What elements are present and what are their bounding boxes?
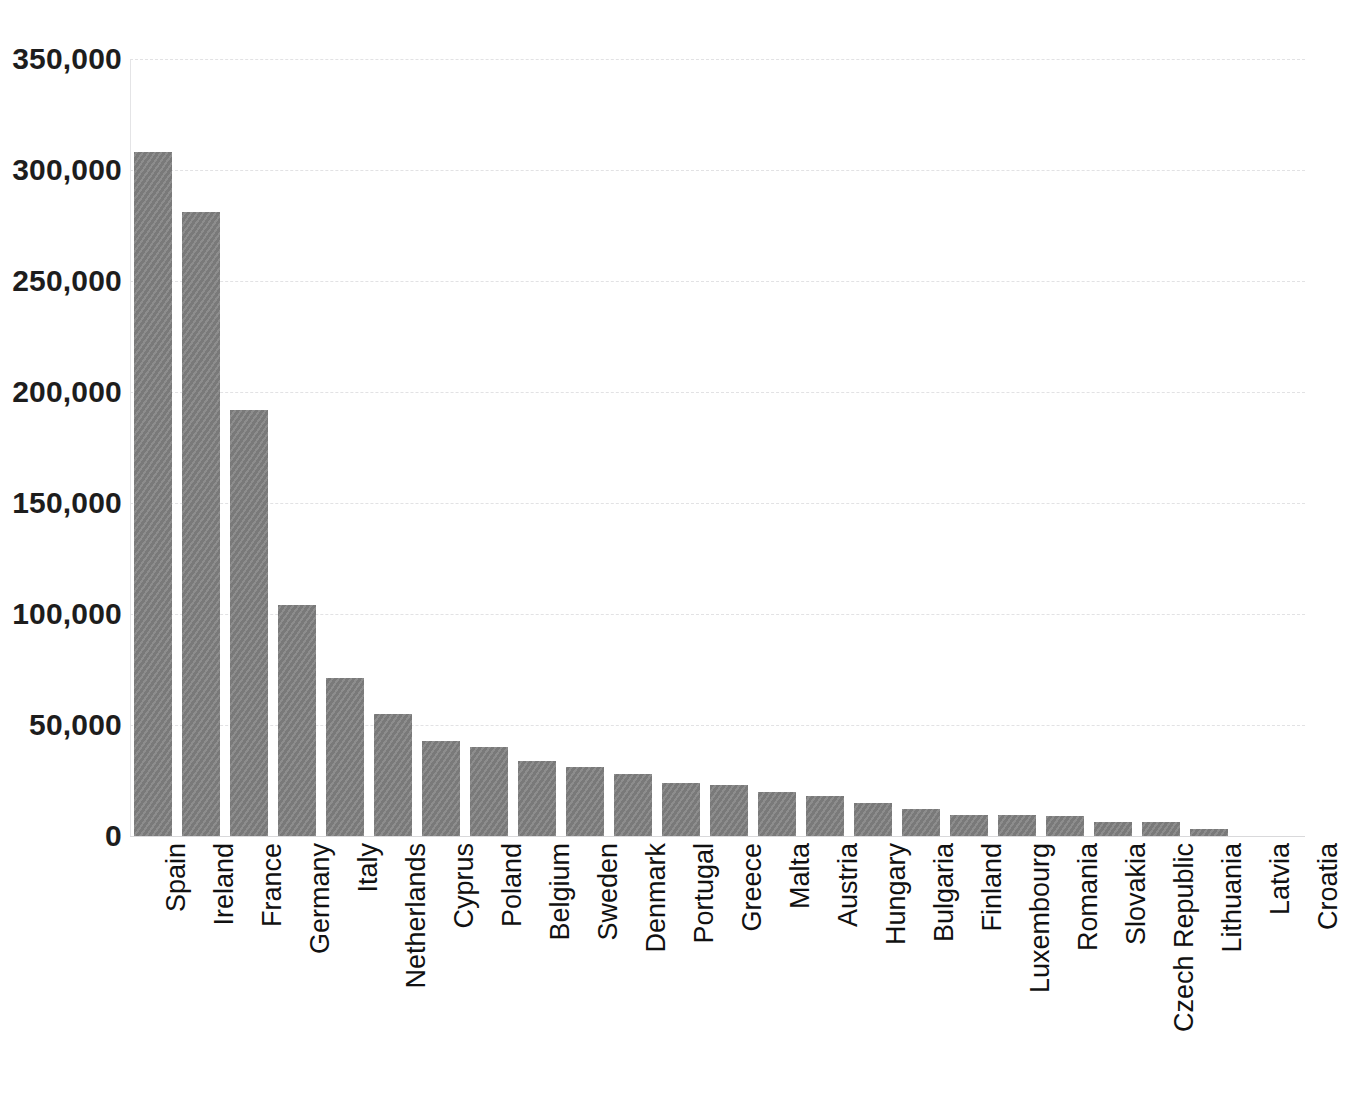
bar [950,815,988,836]
x-axis-tick-label: Hungary [883,843,910,945]
x-axis-tick-label: Malta [787,843,814,909]
axis-baseline [130,836,1305,837]
bar [1046,816,1084,836]
x-axis-tick-label: Belgium [547,843,574,941]
bar [902,809,940,836]
x-axis-tick-label: Cyprus [451,843,478,929]
x-axis-tick-label: Sweden [595,843,622,941]
bar [1142,822,1180,836]
x-axis-tick-label: Ireland [211,843,238,926]
x-axis-tick-label: Denmark [643,843,670,953]
bar [854,803,892,836]
y-axis-tick-label: 150,000 [12,488,122,518]
x-axis-tick-label: Bulgaria [931,843,958,942]
x-axis-tick-label: Lithuania [1219,843,1246,953]
bar-series [130,59,1305,836]
y-axis-tick-label: 200,000 [12,377,122,407]
x-axis-tick-label: Netherlands [403,843,430,989]
y-axis-tick-label: 100,000 [12,599,122,629]
bar [758,792,796,836]
bar [518,761,556,836]
bar [566,767,604,836]
x-axis-tick-label: Portugal [691,843,718,944]
x-axis-labels: SpainIrelandFranceGermanyItalyNetherland… [130,843,1305,1093]
y-axis-tick-label: 250,000 [12,266,122,296]
y-axis-tick-label: 0 [105,821,122,851]
bar [1094,822,1132,836]
x-axis-tick-label: Latvia [1267,843,1294,915]
x-axis-tick-label: Finland [979,843,1006,932]
x-axis-tick-label: Greece [739,843,766,932]
x-axis-tick-label: Luxembourg [1027,843,1054,993]
y-axis-tick-label: 300,000 [12,155,122,185]
bar [230,410,268,836]
x-axis-tick-label: Romania [1075,843,1102,951]
x-axis-tick-label: Czech Republic [1171,843,1198,1032]
bar [1190,829,1228,836]
x-axis-tick-label: Germany [307,843,334,954]
bar [998,815,1036,836]
bar [470,747,508,836]
x-axis-tick-label: Slovakia [1123,843,1150,945]
bar [806,796,844,836]
y-axis-tick-label: 350,000 [12,44,122,74]
bar [662,783,700,836]
bar [278,605,316,836]
x-axis-tick-label: Croatia [1315,843,1342,930]
bar [422,741,460,836]
bar [614,774,652,836]
bar [134,152,172,836]
bar [374,714,412,836]
bar [326,678,364,836]
x-axis-tick-label: Italy [355,843,382,893]
x-axis-tick-label: Spain [163,843,190,912]
bar [182,212,220,836]
x-axis-tick-label: France [259,843,286,927]
bar [710,785,748,836]
x-axis-tick-label: Austria [835,843,862,927]
bar-chart: 050,000100,000150,000200,000250,000300,0… [0,0,1354,1097]
y-axis-tick-label: 50,000 [29,710,122,740]
x-axis-tick-label: Poland [499,843,526,927]
